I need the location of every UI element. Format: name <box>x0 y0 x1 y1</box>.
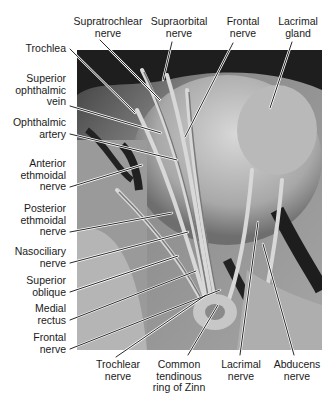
label-ring-of-zinn: Common tendinous ring of Zinn <box>146 359 212 394</box>
label-supraorbital-nerve: Supraorbital nerve <box>144 16 214 39</box>
label-superior-oblique: Superior oblique <box>0 275 66 298</box>
label-medial-rectus: Medial rectus <box>0 303 66 326</box>
label-posterior-ethmoidal-nerve: Posterior ethmoidal nerve <box>0 203 66 238</box>
label-frontal-nerve-top: Frontal nerve <box>218 16 268 39</box>
dissection-photo <box>77 50 322 350</box>
label-lacrimal-nerve: Lacrimal nerve <box>214 359 268 382</box>
label-anterior-ethmoidal-nerve: Anterior ethmoidal nerve <box>0 158 66 193</box>
label-lacrimal-gland: Lacrimal gland <box>270 16 326 39</box>
label-superior-ophthalmic-vein: Superior ophthalmic vein <box>0 73 66 108</box>
label-ophthalmic-artery: Ophthalmic artery <box>0 117 66 140</box>
label-frontal-nerve-left: Frontal nerve <box>0 332 66 355</box>
label-trochlea: Trochlea <box>0 43 66 55</box>
label-trochlear-nerve: Trochlear nerve <box>88 359 148 382</box>
label-nasociliary-nerve: Nasociliary nerve <box>0 246 66 269</box>
label-abducens-nerve: Abducens nerve <box>268 359 326 382</box>
label-supratrochlear-nerve: Supratrochlear nerve <box>58 16 158 39</box>
